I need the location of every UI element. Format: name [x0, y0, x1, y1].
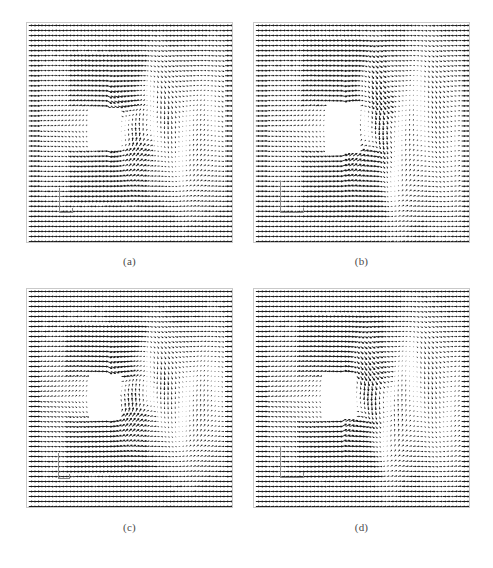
panel-a-caption: (a): [26, 255, 233, 267]
panel-c-frame: [26, 288, 233, 508]
panel-b-reference-scale-marker: [280, 181, 304, 213]
panel-d-caption: (d): [253, 521, 470, 533]
figure-vector-field-panels: (a) (b) (c) (d): [0, 0, 493, 568]
panel-d-reference-scale-marker: [280, 446, 304, 478]
panel-a: (a): [26, 22, 233, 243]
panel-c-obstacle: [89, 377, 120, 417]
panel-d: (d): [253, 288, 470, 508]
panel-d-frame: [253, 288, 470, 508]
panel-c-reference-scale-marker: [58, 453, 70, 479]
panel-c-caption: (c): [26, 521, 233, 533]
panel-b-frame: [253, 22, 470, 243]
panel-a-frame: [26, 22, 233, 243]
panel-a-obstacle: [90, 108, 120, 149]
panel-d-obstacle: [322, 375, 355, 419]
panel-b-obstacle: [325, 106, 358, 154]
panel-c: (c): [26, 288, 233, 508]
panel-b: (b): [253, 22, 470, 243]
panel-a-reference-scale-marker: [59, 188, 72, 213]
panel-b-caption: (b): [253, 255, 470, 267]
panel-a-vector-field: [27, 23, 232, 242]
